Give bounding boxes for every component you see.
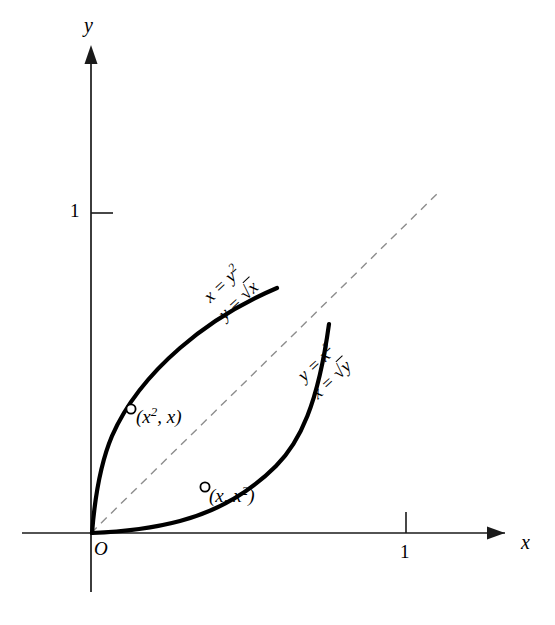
x-axis-arrowhead [487,527,505,540]
y-axis-label: y [84,14,93,37]
y-tick-label-1: 1 [70,200,80,222]
plot-canvas [0,0,555,625]
point-lower-base1: x [215,485,223,506]
paren-close: ) [248,485,254,506]
figure-container: y x 1 1 O (x2, x) (x, x2) x = y2 y = √x … [0,0,555,625]
x-tick-label-1: 1 [400,541,410,563]
figure-caption [0,612,555,625]
identity-line-dashed [91,190,441,533]
origin-label: O [94,538,108,560]
point-lower-separator: , [224,485,234,506]
paren-close: ) [175,406,181,427]
point-label-lower: (x, x2) [209,483,254,507]
y-axis [85,45,114,592]
point-marker-upper [126,404,135,413]
point-upper-separator: , [157,406,167,427]
point-lower-base2: x [233,485,241,506]
point-label-upper: (x2, x) [136,404,181,428]
point-upper-base2: x [167,406,175,427]
x-axis-label: x [521,531,530,554]
y-axis-arrowhead [85,45,98,64]
point-upper-base1: x [142,406,150,427]
